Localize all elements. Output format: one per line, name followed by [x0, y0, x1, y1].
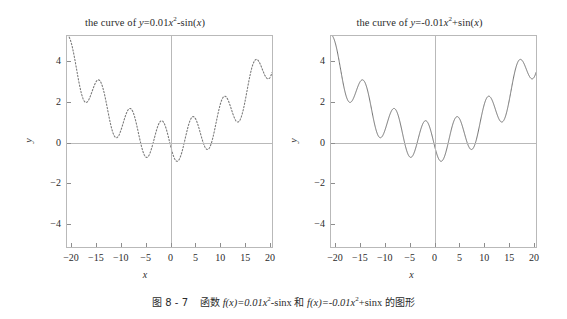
y-tick-label: −2 — [50, 178, 61, 188]
x-tick — [270, 243, 271, 247]
plot-area-right: −4−2024−20−15−10−505101520 — [330, 35, 537, 248]
y-tick — [331, 143, 335, 144]
x-tick — [96, 243, 97, 247]
x-tick — [459, 243, 460, 247]
x-zero-axis-line — [331, 143, 536, 144]
x-tick — [71, 243, 72, 247]
y-tick — [67, 224, 71, 225]
chart-title-left: the curve of y=0.01x2-sin(x) — [0, 13, 290, 29]
y-tick — [331, 224, 335, 225]
caption-cn-2: 的图形 — [385, 297, 415, 308]
x-tick-label: −15 — [88, 253, 104, 263]
y-tick — [331, 102, 335, 103]
y-axis-title-right: y — [288, 138, 299, 142]
x-tick — [335, 243, 336, 247]
y-tick — [67, 143, 71, 144]
chart-title-right-close: ) — [479, 17, 483, 28]
x-tick-label: −20 — [327, 253, 343, 263]
y-tick — [331, 61, 335, 62]
chart-title-left-close: ) — [201, 17, 205, 28]
x-tick — [171, 243, 172, 247]
y-tick-label: −2 — [314, 178, 325, 188]
chart-title-left-op: -sin( — [177, 17, 197, 28]
x-tick-label: −5 — [140, 253, 151, 263]
chart-title-right-op: +sin( — [452, 17, 474, 28]
x-tick — [220, 243, 221, 247]
y-tick — [67, 61, 71, 62]
x-tick — [484, 243, 485, 247]
caption-number: 图 8 - 7 — [152, 297, 188, 308]
x-tick-label: −10 — [113, 253, 129, 263]
y-tick-label: 0 — [320, 138, 325, 148]
caption-fx1: f(x)=0.01x — [223, 297, 268, 308]
x-tick-label: −5 — [404, 253, 415, 263]
caption-fx2: f(x)=-0.01x — [307, 297, 355, 308]
y-tick-label: 2 — [56, 97, 61, 107]
chart-panel-right: the curve of y=-0.01x2+sin(x) y −4−2024−… — [272, 0, 567, 290]
caption-fx1-tail: -sinx — [271, 297, 292, 308]
x-tick-label: 5 — [193, 253, 198, 263]
x-tick — [509, 243, 510, 247]
caption-cn-1: 函数 — [200, 297, 220, 308]
caption-fx2-tail: +sinx — [359, 297, 382, 308]
chart-title-left-eq: =0.01 — [144, 17, 169, 28]
x-tick-label: 10 — [215, 253, 225, 263]
chart-title-right-prefix: the curve of — [356, 17, 410, 28]
x-axis-title-right: x — [264, 269, 559, 280]
x-tick-label: 5 — [457, 253, 462, 263]
x-tick-label: −20 — [63, 253, 79, 263]
y-zero-axis-line — [435, 36, 436, 247]
caption-and: 和 — [294, 297, 304, 308]
y-tick — [67, 183, 71, 184]
y-tick-label: −4 — [314, 219, 325, 229]
x-zero-axis-line — [67, 143, 272, 144]
chart-title-right: the curve of y=-0.01x2+sin(x) — [272, 13, 567, 29]
y-zero-axis-line — [171, 36, 172, 247]
x-tick-label: 10 — [479, 253, 489, 263]
x-axis-title-left: x — [0, 269, 290, 280]
x-tick-label: 15 — [240, 253, 250, 263]
y-tick-label: 0 — [56, 138, 61, 148]
y-tick-label: 4 — [56, 56, 61, 66]
y-tick — [331, 183, 335, 184]
y-tick-label: −4 — [50, 219, 61, 229]
x-tick — [121, 243, 122, 247]
curve-left — [67, 36, 272, 247]
curve-right — [331, 36, 536, 247]
figure-caption: 图 8 - 7函数 f(x)=0.01x2-sinx 和 f(x)=-0.01x… — [0, 292, 567, 310]
x-tick-label: −15 — [352, 253, 368, 263]
x-tick-label: 15 — [504, 253, 514, 263]
x-tick-label: −10 — [377, 253, 393, 263]
x-tick — [410, 243, 411, 247]
x-tick — [360, 243, 361, 247]
x-tick-label: 20 — [529, 253, 539, 263]
x-tick-label: 0 — [168, 253, 173, 263]
chart-title-left-prefix: the curve of — [85, 17, 139, 28]
chart-panel-left: the curve of y=0.01x2-sin(x) y −4−2024−2… — [0, 0, 290, 290]
figure-root: the curve of y=0.01x2-sin(x) y −4−2024−2… — [0, 0, 567, 319]
x-tick — [534, 243, 535, 247]
x-tick — [435, 243, 436, 247]
x-tick-label: 0 — [432, 253, 437, 263]
y-tick-label: 2 — [320, 97, 325, 107]
chart-title-right-eq: =-0.01 — [415, 17, 443, 28]
x-tick — [146, 243, 147, 247]
plot-area-left: −4−2024−20−15−10−505101520 — [66, 35, 273, 248]
x-tick — [385, 243, 386, 247]
x-tick — [195, 243, 196, 247]
y-tick — [67, 102, 71, 103]
y-axis-title-left: y — [23, 138, 34, 142]
y-tick-label: 4 — [320, 56, 325, 66]
x-tick — [245, 243, 246, 247]
